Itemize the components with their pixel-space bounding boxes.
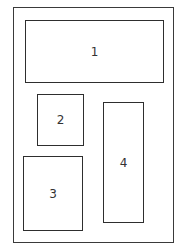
region-4: 4 <box>103 102 144 223</box>
region-1-label: 1 <box>91 46 99 58</box>
region-3-label: 3 <box>49 188 57 200</box>
region-3: 3 <box>23 156 83 231</box>
region-2-label: 2 <box>57 114 65 126</box>
region-2: 2 <box>37 94 84 146</box>
region-4-label: 4 <box>120 157 128 169</box>
region-1: 1 <box>25 20 164 83</box>
